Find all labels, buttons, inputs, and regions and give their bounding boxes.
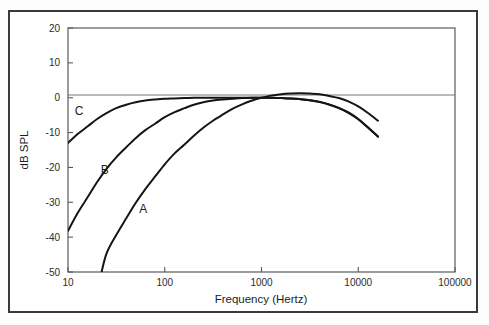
plot-area-border <box>68 28 455 272</box>
curve-b <box>68 98 378 231</box>
curve-series-group <box>68 93 378 274</box>
curve-label-c: C <box>75 104 84 118</box>
y-tick-label: -50 <box>46 267 61 278</box>
x-tick-label: 100 <box>156 277 173 288</box>
x-tick-label: 10 <box>62 277 74 288</box>
y-tick-label: 10 <box>49 57 61 68</box>
weighting-curves-chart: 20100-10-20-30-40-50 1010010001000010000… <box>0 0 489 325</box>
y-tick-label: 20 <box>49 23 61 34</box>
figure-container: 20100-10-20-30-40-50 1010010001000010000… <box>0 0 489 325</box>
y-tick-label: -20 <box>46 162 61 173</box>
y-tick-label: -10 <box>46 127 61 138</box>
y-tick-label: 0 <box>54 92 60 103</box>
y-axis-title: dB SPL <box>18 130 30 170</box>
curve-label-b: B <box>101 163 109 177</box>
x-tick-label: 10000 <box>344 277 372 288</box>
x-tick-label: 1000 <box>250 277 273 288</box>
x-tick-label: 100000 <box>438 277 472 288</box>
x-axis-title: Frequency (Hertz) <box>215 293 308 305</box>
curve-a <box>101 93 378 274</box>
y-tick-label: -30 <box>46 197 61 208</box>
y-axis: 20100-10-20-30-40-50 <box>46 23 73 278</box>
curve-label-a: A <box>139 202 147 216</box>
curve-c <box>68 98 378 143</box>
x-axis: 10100100010000100000 <box>62 267 472 288</box>
y-tick-label: -40 <box>46 232 61 243</box>
